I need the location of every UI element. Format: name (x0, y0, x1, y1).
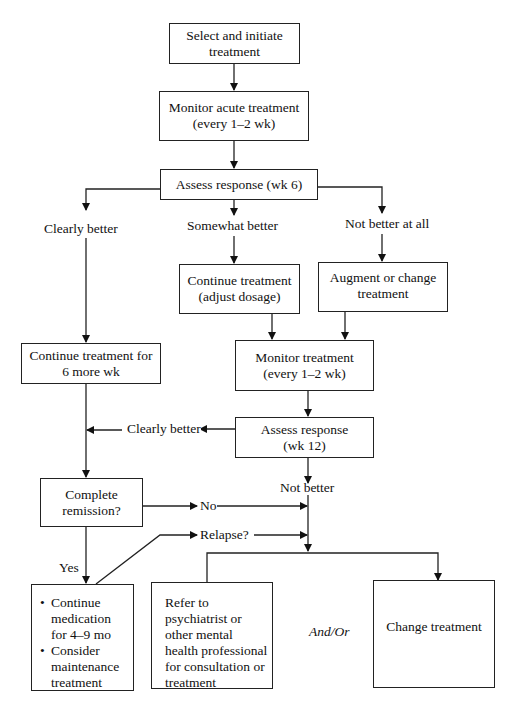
augment-line2: treatment (358, 286, 409, 302)
remission-line1: Complete (65, 487, 118, 503)
augment-line1: Augment or change (330, 270, 436, 286)
label-relapse: Relapse? (200, 527, 249, 543)
label-clearly-better: Clearly better (44, 221, 118, 237)
label-no: No (200, 498, 217, 514)
remission-line2: remission? (62, 503, 121, 519)
continue-adjust-line1: Continue treatment (188, 273, 292, 289)
assess-wk6-box: Assess response (wk 6) (160, 169, 318, 200)
bullet-consider-maintenance: Consider maintenance treatment (40, 643, 127, 691)
augment-change-box: Augment or change treatment (318, 262, 448, 312)
monitor-line1: Monitor treatment (255, 350, 354, 366)
continue-medication-box: Continue medication for 4–9 mo Consider … (31, 584, 134, 691)
assess12-line2: (wk 12) (283, 438, 325, 454)
monitor-treatment-box: Monitor treatment (every 1–2 wk) (235, 340, 374, 391)
continue-6wk-line1: Continue treatment for (30, 348, 153, 364)
label-yes: Yes (59, 560, 79, 576)
assess-wk6-text: Assess response (wk 6) (176, 177, 302, 193)
select-initiate-box: Select and initiate treatment (169, 23, 300, 64)
change-treatment-box: Change treatment (373, 580, 495, 688)
assess12-line1: Assess response (261, 422, 348, 438)
monitor-acute-line2: (every 1–2 wk) (193, 116, 275, 132)
continue-6wk-box: Continue treatment for 6 more wk (21, 343, 161, 384)
label-clearly-better-2: Clearly better (127, 421, 201, 437)
change-treatment-text: Change treatment (386, 619, 482, 635)
label-somewhat-better: Somewhat better (187, 218, 278, 234)
continue-medication-list: Continue medication for 4–9 mo Consider … (40, 595, 127, 691)
bullet-continue-medication: Continue medication for 4–9 mo (40, 595, 127, 643)
label-not-better: Not better (280, 480, 334, 496)
continue-adjust-box: Continue treatment (adjust dosage) (179, 264, 300, 314)
refer-box: Refer to psychiatrist or other mental he… (151, 582, 273, 689)
monitor-line2: (every 1–2 wk) (263, 366, 345, 382)
refer-text: Refer to psychiatrist or other mental he… (165, 595, 268, 691)
select-initiate-text: Select and initiate treatment (185, 28, 285, 60)
assess-wk12-box: Assess response (wk 12) (235, 417, 374, 458)
continue-adjust-line2: (adjust dosage) (198, 289, 280, 305)
label-not-better-at-all: Not better at all (345, 216, 429, 232)
monitor-acute-line1: Monitor acute treatment (169, 100, 299, 116)
monitor-acute-box: Monitor acute treatment (every 1–2 wk) (159, 91, 309, 141)
label-and-or: And/Or (309, 624, 350, 640)
complete-remission-box: Complete remission? (40, 478, 143, 527)
continue-6wk-line2: 6 more wk (62, 364, 120, 380)
